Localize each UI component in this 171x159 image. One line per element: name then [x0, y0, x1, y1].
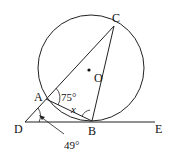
label-e: E — [155, 122, 162, 136]
label-a: A — [34, 90, 43, 104]
label-d: D — [14, 122, 23, 136]
angle-arc-adb — [38, 108, 40, 122]
angle-label-x: x — [70, 103, 76, 115]
angle-arc-abc — [82, 110, 90, 116]
angle-label-75: 75° — [61, 91, 76, 103]
label-c: C — [112, 11, 120, 25]
circle-o — [38, 15, 144, 121]
label-b: B — [88, 124, 96, 138]
geometry-diagram: C O A D B E 75° x 49° — [0, 0, 171, 159]
center-dot-o — [87, 68, 90, 71]
label-o: O — [94, 71, 103, 85]
angle-label-49: 49° — [64, 139, 79, 151]
pointer-arrow-49 — [41, 117, 64, 134]
angle-arc-cab — [56, 88, 60, 105]
